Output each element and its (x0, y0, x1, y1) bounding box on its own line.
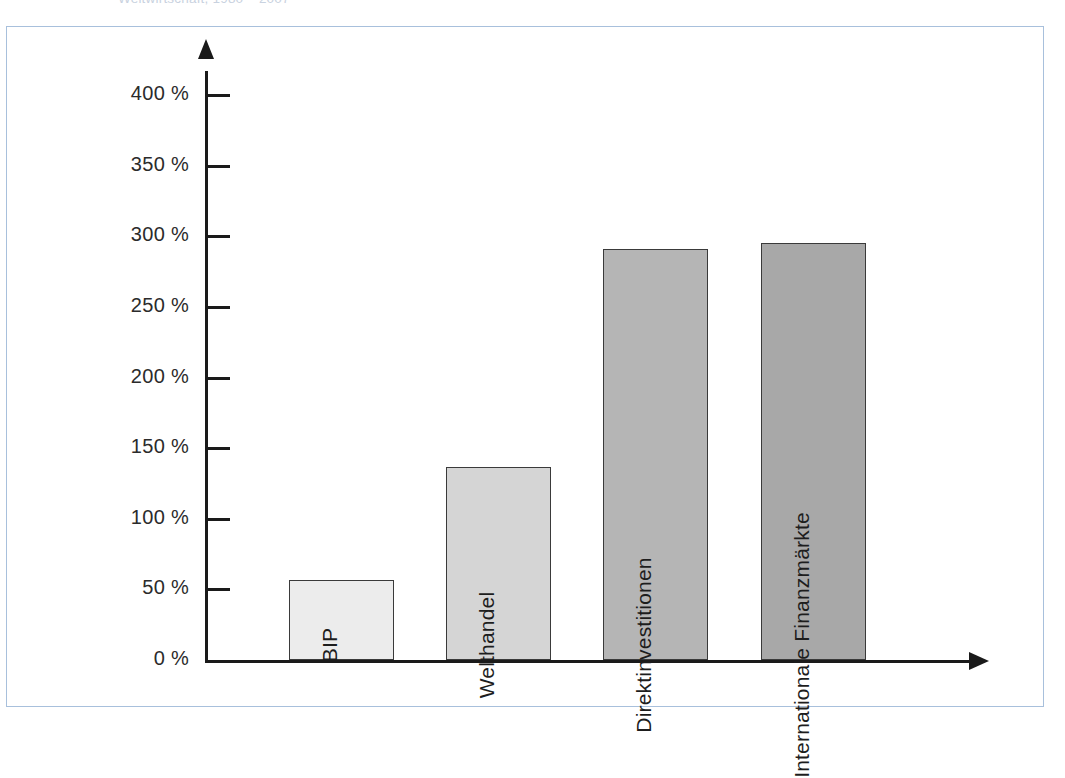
bar-label: Welthandel (475, 592, 499, 699)
bar-label: Direktinvestitionen (632, 557, 656, 732)
figure-caption: Weltwirtschaft, 1980 – 2007 (118, 0, 290, 6)
bar-label: BIP (318, 628, 342, 662)
bar-3[interactable]: Direktinvestitionen (603, 249, 708, 660)
bar-series: BIPWelthandelDirektinvestitionenInternat… (7, 27, 1045, 708)
bar-4[interactable]: Internationale Finanzmärkte (761, 243, 866, 660)
caption-strip: Weltwirtschaft, 1980 – 2007 (0, 0, 1065, 12)
bar-2[interactable]: Welthandel (446, 467, 551, 660)
bar-1[interactable]: BIP (289, 580, 394, 660)
plot-area: 400 %350 %300 %250 %200 %150 %100 %50 %0… (7, 27, 1045, 708)
figure-frame: 400 %350 %300 %250 %200 %150 %100 %50 %0… (6, 26, 1044, 707)
bar-label: Internationale Finanzmärkte (790, 512, 814, 778)
